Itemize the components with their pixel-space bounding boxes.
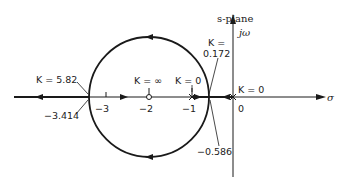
imag-axis-label: jω: [237, 27, 250, 38]
label-k0172-2: 0.172: [203, 48, 230, 59]
label-breakaway: −0.586: [197, 146, 232, 157]
label-k0-left: K = 0: [175, 75, 201, 86]
tick-label-neg1: −1: [182, 103, 196, 114]
plane-label: s-plane: [217, 13, 254, 24]
pointer-k582: [77, 82, 88, 94]
real-axis-label: σ: [327, 92, 335, 103]
pointer-breakaway: [210, 100, 219, 146]
tick-label-neg3: −3: [95, 103, 109, 114]
label-k582: K = 5.82: [36, 74, 77, 85]
label-k0172-1: K =: [208, 37, 225, 48]
arrow-pole1-icon: [194, 94, 202, 100]
label-k0-origin: K = 0: [238, 84, 264, 95]
root-locus-diagram: s-plane jω σ K = 5.82 K = ∞ K = 0 K = 0.…: [0, 0, 342, 189]
tick-label-neg2: −2: [139, 103, 153, 114]
arrow-zero-approach-icon: [120, 94, 128, 100]
zero-neg2-icon: [147, 95, 152, 100]
tick-label-0: 0: [238, 103, 244, 114]
arrow-bottom-icon: [145, 154, 153, 160]
pointer-k0172: [209, 58, 218, 94]
arrow-top-icon: [145, 34, 153, 40]
arrow-pole0-icon: [222, 94, 230, 100]
real-axis: [14, 94, 326, 100]
label-breakin: −3.414: [44, 110, 79, 121]
real-axis-arrow-icon: [316, 94, 326, 100]
label-kinf: K = ∞: [134, 75, 162, 86]
arrow-left-icon: [35, 94, 43, 100]
